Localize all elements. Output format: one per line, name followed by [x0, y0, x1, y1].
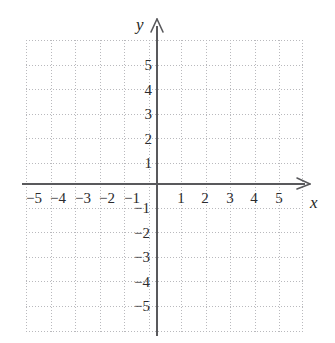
- y-axis-label: y: [136, 16, 144, 33]
- x-tick-label--5: −5: [22, 191, 46, 206]
- y-tick-label--5: −5: [128, 299, 150, 314]
- y-tick-label--2: −2: [128, 226, 150, 241]
- x-axis-line: [22, 183, 305, 185]
- x-tick-label--2: −2: [95, 191, 119, 206]
- x-tick-label-1: 1: [169, 191, 193, 206]
- y-tick-label-1: 1: [130, 156, 152, 171]
- x-tick-label--4: −4: [46, 191, 70, 206]
- x-tick-label--3: −3: [71, 191, 95, 206]
- x-tick-label-3: 3: [218, 191, 242, 206]
- y-axis-line: [156, 26, 158, 336]
- arrow-up-icon: [149, 18, 165, 34]
- y-tick-label--4: −4: [128, 275, 150, 290]
- axes: [0, 0, 335, 343]
- x-tick-label-2: 2: [193, 191, 217, 206]
- y-tick-label-3: 3: [130, 107, 152, 122]
- arrow-right-icon: [296, 176, 312, 192]
- x-tick-label-5: 5: [267, 191, 291, 206]
- x-tick-label-4: 4: [242, 191, 266, 206]
- y-tick-label-2: 2: [130, 132, 152, 147]
- y-tick-label--1: −1: [128, 201, 150, 216]
- y-tick-label--3: −3: [128, 250, 150, 265]
- x-axis-label: x: [310, 194, 318, 211]
- coordinate-plane: x y −5 −4 −3 −2 −1 1 2 3 4 5 5 4 3 2 1 −…: [0, 0, 335, 343]
- y-tick-label-5: 5: [130, 58, 152, 73]
- y-tick-label-4: 4: [130, 83, 152, 98]
